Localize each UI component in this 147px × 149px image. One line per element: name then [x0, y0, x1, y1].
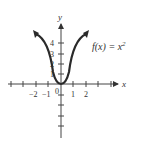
function-label: f(x) = x2	[92, 40, 126, 53]
curve-arrow-right-icon	[83, 30, 89, 38]
y-axis-label: y	[57, 12, 62, 22]
x-tick-2: 2	[84, 90, 88, 99]
x-tick-1: 1	[71, 90, 75, 99]
y-tick-1: 1	[50, 70, 54, 79]
origin-label: 0	[55, 87, 59, 96]
function-graph: y x 4 3 2 1 −2 −1 0 1 2 f(x) = x2	[0, 0, 147, 149]
y-tick-3: 3	[50, 50, 54, 59]
y-tick-2: 2	[50, 60, 54, 69]
y-tick-4: 4	[50, 39, 54, 48]
curve-arrow-left-icon	[33, 30, 39, 38]
x-tick-neg1: −1	[42, 90, 51, 99]
x-axis-label: x	[121, 79, 126, 89]
x-tick-neg2: −2	[29, 90, 38, 99]
